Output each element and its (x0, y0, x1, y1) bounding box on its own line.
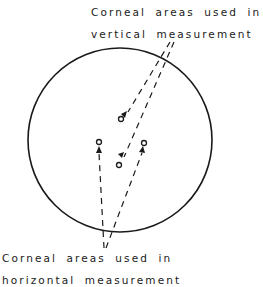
point-vertical-upper (119, 117, 124, 122)
vertical-label-line2: vertical measurement (91, 29, 253, 40)
measurement-points (97, 117, 147, 168)
point-horizontal-left (97, 140, 102, 145)
point-horizontal-right (142, 141, 147, 146)
leader-line-vertical-lower (124, 42, 174, 157)
vertical-label-line1: Corneal areas used in (91, 7, 261, 18)
leader-line-horizontal-left (99, 153, 104, 248)
leader-line-horizontal-right (106, 153, 142, 248)
arrowhead-horizontal-left-icon (96, 146, 102, 153)
arrowhead-horizontal-right-icon (139, 146, 145, 153)
cornea-outline (28, 48, 212, 232)
point-vertical-lower (117, 163, 122, 168)
horizontal-label-line1: Corneal areas used in (2, 253, 172, 264)
arrowhead-vertical-lower-icon (118, 152, 124, 158)
horizontal-label-line2: horizontal measurement (2, 275, 181, 286)
vertical-leader-lines (124, 42, 174, 157)
cornea-diagram (0, 0, 263, 287)
